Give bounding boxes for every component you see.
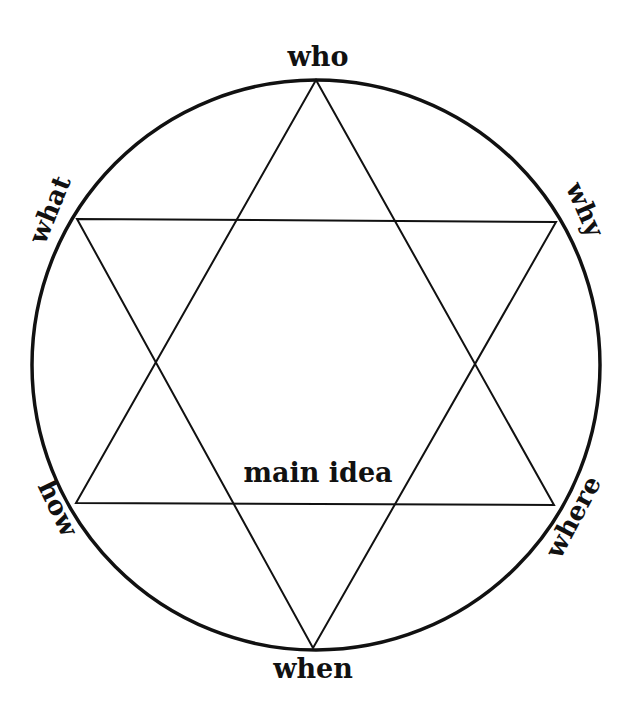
label-main-idea: main idea <box>243 457 392 488</box>
label-where: where <box>539 471 607 564</box>
downward-triangle <box>77 219 556 648</box>
label-when: when <box>272 653 353 684</box>
label-who: who <box>287 41 349 72</box>
question-star-diagram: who when main idea what why how where <box>0 0 636 717</box>
outer-circle <box>32 80 600 650</box>
label-how: how <box>32 475 85 541</box>
label-what: what <box>22 171 76 248</box>
upward-triangle <box>76 80 554 505</box>
